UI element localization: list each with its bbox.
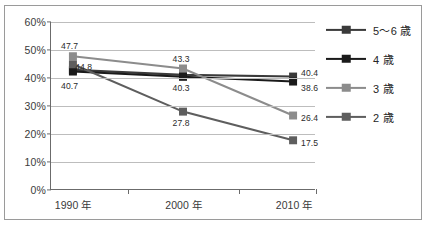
legend-item-4[interactable]: 2 歳 (326, 105, 430, 128)
gridline (51, 106, 315, 107)
legend-item-label: 4 歳 (373, 51, 394, 67)
gridline (51, 134, 315, 135)
data-point-label: 47.7 (61, 41, 78, 51)
legend-item-1[interactable]: 5〜6 歳 (326, 18, 430, 41)
data-point-label: 44.8 (75, 62, 92, 72)
legend-item-label: 5〜6 歳 (373, 22, 412, 38)
y-axis-tick-mark (47, 49, 51, 50)
gridline (51, 22, 315, 23)
data-point-label: 43.3 (173, 54, 190, 64)
data-point-label: 17.5 (301, 138, 318, 148)
y-axis-tick-mark (47, 77, 51, 78)
y-axis-tick-label: 30% (24, 100, 46, 112)
x-axis-tick-label: 1990 年 (55, 197, 91, 212)
y-axis-tick-label: 60% (24, 16, 46, 28)
chart-root: 0%10%20%30%40%50%60%1990 年2000 年2010 年47… (0, 0, 435, 231)
legend-key-icon (326, 53, 366, 65)
y-axis-tick-mark (47, 105, 51, 106)
data-point-label: 40.3 (173, 83, 190, 93)
data-point-label: 27.8 (173, 118, 190, 128)
data-point-label: 26.4 (301, 113, 318, 123)
y-axis-tick-mark (47, 161, 51, 162)
series-marker (289, 112, 297, 120)
legend-marker-square (342, 112, 351, 121)
series-line (73, 64, 293, 140)
legend-item-2[interactable]: 4 歳 (326, 47, 430, 70)
legend-key-icon (326, 111, 366, 123)
series-marker (179, 108, 187, 116)
data-point-label: 40.7 (61, 81, 78, 91)
series-marker (289, 136, 297, 144)
series-marker (179, 73, 187, 81)
plot-wrapper: 0%10%20%30%40%50%60%1990 年2000 年2010 年47… (50, 22, 315, 190)
series-line (73, 70, 293, 77)
y-axis-tick-label: 50% (24, 44, 46, 56)
legend-marker-square (342, 83, 351, 92)
y-axis-tick-label: 40% (24, 72, 46, 84)
x-axis-tick-mark (128, 189, 129, 194)
x-axis-tick-label: 2010 年 (276, 197, 312, 212)
legend-item-3[interactable]: 3 歳 (326, 76, 430, 99)
x-axis-tick-mark (239, 189, 240, 194)
x-axis-tick-mark (316, 189, 317, 194)
gridline (51, 50, 315, 51)
y-axis-tick-label: 10% (24, 156, 46, 168)
y-axis-tick-mark (47, 133, 51, 134)
series-marker (289, 73, 297, 81)
series-marker (179, 65, 187, 73)
gridline (51, 162, 315, 163)
series-marker (69, 52, 77, 60)
plot-area: 0%10%20%30%40%50%60%1990 年2000 年2010 年47… (50, 22, 315, 190)
legend-item-label: 3 歳 (373, 80, 394, 96)
legend-key-icon (326, 82, 366, 94)
y-axis-tick-label: 0% (30, 184, 46, 196)
legend-marker-square (342, 25, 351, 34)
gridline (51, 78, 315, 79)
series-line (73, 72, 293, 82)
chart-legend: 5〜6 歳4 歳3 歳2 歳 (326, 18, 430, 134)
y-axis-tick-mark (47, 21, 51, 22)
legend-marker-square (342, 54, 351, 63)
x-axis-tick-label: 2000 年 (165, 197, 201, 212)
y-axis-tick-mark (47, 189, 51, 190)
data-point-label: 38.6 (301, 83, 318, 93)
legend-item-label: 2 歳 (373, 109, 394, 125)
legend-key-icon (326, 24, 366, 36)
y-axis-tick-label: 20% (24, 128, 46, 140)
data-point-label: 40.4 (301, 68, 318, 78)
